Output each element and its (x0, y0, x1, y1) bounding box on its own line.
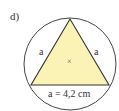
center-marker: × (67, 58, 72, 66)
base-label: a = 4,2 cm (48, 89, 90, 99)
side-label-right: a (94, 47, 98, 57)
task-label: d) (10, 11, 19, 22)
side-label-left: a (39, 47, 43, 57)
